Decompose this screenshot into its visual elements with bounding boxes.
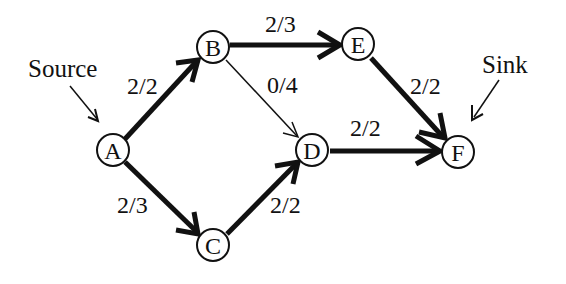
- edge-b-d-label: 0/4: [267, 73, 298, 97]
- sink-annotation: Sink: [482, 52, 528, 77]
- node-f-label: F: [441, 141, 475, 165]
- node-a-label: A: [96, 139, 130, 163]
- edge-a-b-label: 2/2: [127, 74, 158, 98]
- edge-e-f-label: 2/2: [410, 74, 441, 98]
- node-b-label: B: [196, 36, 230, 60]
- edge-d-f: [330, 136, 440, 164]
- source-pointer-arrow: [70, 86, 98, 121]
- edge-b-e-label: 2/3: [265, 12, 296, 36]
- edge-c-d-label: 2/2: [270, 193, 301, 217]
- node-d-label: D: [295, 139, 329, 163]
- node-c-label: C: [196, 234, 230, 258]
- edge-d-f-label: 2/2: [350, 116, 381, 140]
- edge-a-b: [125, 60, 198, 139]
- edges-layer: [0, 0, 566, 284]
- edge-a-c-label: 2/3: [117, 193, 148, 217]
- flow-network-diagram: A B C D E F 2/2 2/3 2/3 0/4 2/2 2/2 2/2 …: [0, 0, 566, 284]
- sink-pointer-arrow: [472, 80, 499, 120]
- node-e-label: E: [341, 33, 375, 57]
- source-annotation: Source: [28, 56, 97, 81]
